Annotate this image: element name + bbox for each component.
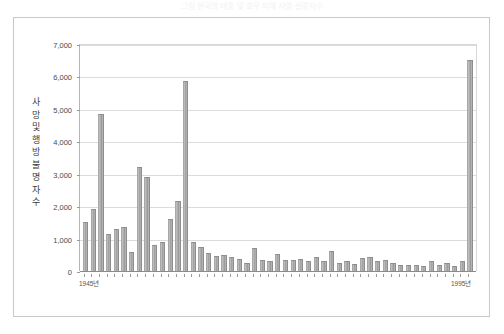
y-axis-title-char: 방: [27, 146, 45, 159]
bar: [444, 263, 449, 271]
x-tick-mark: [437, 274, 438, 277]
x-tick-mark: [360, 274, 361, 277]
bar: [414, 265, 419, 271]
bar: [283, 260, 288, 271]
bar: [183, 81, 188, 271]
bar: [314, 257, 319, 271]
bar: [344, 261, 349, 271]
bar: [237, 259, 242, 271]
x-tick-mark: [237, 274, 238, 277]
x-tick-mark: [245, 274, 246, 277]
x-tick-mark: [145, 274, 146, 277]
x-tick-mark: [114, 274, 115, 277]
x-tick-mark: [445, 274, 446, 277]
x-tick-mark: [406, 274, 407, 277]
figure-caption: 그림 한국의 태풍 및 호우 피해 사망·실종자수: [0, 0, 504, 14]
bar: [91, 209, 96, 271]
y-tick-mark: [77, 175, 80, 176]
bar: [221, 255, 226, 271]
bar: [137, 167, 142, 271]
y-tick-label: 1,000: [32, 236, 72, 245]
x-tick-right: 1995년: [451, 278, 471, 288]
bar: [198, 247, 203, 271]
x-tick-mark: [199, 274, 200, 277]
bar: [291, 260, 296, 271]
y-tick-mark: [77, 45, 80, 46]
x-tick-mark: [414, 274, 415, 277]
bar: [191, 242, 196, 271]
bar: [367, 257, 372, 271]
x-tick-mark: [283, 274, 284, 277]
x-tick-mark: [353, 274, 354, 277]
y-tick-label: 0: [32, 268, 72, 277]
x-tick-mark: [307, 274, 308, 277]
bar: [437, 265, 442, 271]
bar: [429, 261, 434, 271]
x-axis-labels: 1945년 1995년: [79, 274, 477, 288]
axis-baseline: [80, 271, 476, 272]
x-tick-mark: [299, 274, 300, 277]
x-tick-mark: [453, 274, 454, 277]
bar: [337, 263, 342, 271]
y-tick-label: 7,000: [32, 41, 72, 50]
x-tick-mark: [291, 274, 292, 277]
bar: [298, 259, 303, 271]
bar: [321, 261, 326, 271]
x-tick-mark: [168, 274, 169, 277]
x-tick-mark: [399, 274, 400, 277]
y-axis-title-char: 자: [27, 184, 45, 197]
bar: [398, 265, 403, 271]
bar: [467, 60, 472, 271]
x-tick-mark: [337, 274, 338, 277]
x-tick-mark: [153, 274, 154, 277]
bar-series: [81, 45, 476, 271]
x-tick-mark: [84, 274, 85, 277]
x-tick-mark: [368, 274, 369, 277]
bar: [375, 261, 380, 271]
x-tick-mark: [468, 274, 469, 277]
x-tick-mark: [391, 274, 392, 277]
plot-area: 01,0002,0003,0004,0005,0006,0007,000: [79, 44, 477, 271]
bar: [152, 245, 157, 271]
x-tick-mark: [222, 274, 223, 277]
bar: [267, 261, 272, 271]
x-tick-mark: [176, 274, 177, 277]
y-axis-title-char: 및: [27, 121, 45, 134]
x-tick-mark: [422, 274, 423, 277]
y-tick-mark: [77, 207, 80, 208]
x-tick-mark: [107, 274, 108, 277]
x-tick-mark: [268, 274, 269, 277]
bar: [460, 261, 465, 271]
bar: [421, 266, 426, 271]
bar: [352, 264, 357, 271]
x-tick-mark: [260, 274, 261, 277]
bar: [383, 260, 388, 271]
bar: [229, 257, 234, 271]
bar: [83, 222, 88, 271]
bar: [129, 252, 134, 271]
x-tick-mark: [161, 274, 162, 277]
x-tick-mark: [376, 274, 377, 277]
bar: [121, 227, 126, 271]
x-tick-mark: [137, 274, 138, 277]
x-tick-mark: [184, 274, 185, 277]
bar: [244, 263, 249, 271]
x-tick-mark: [191, 274, 192, 277]
y-tick-mark: [77, 142, 80, 143]
x-tick-mark: [91, 274, 92, 277]
bar: [306, 261, 311, 271]
y-tick-label: 5,000: [32, 106, 72, 115]
x-tick-mark: [460, 274, 461, 277]
bar: [168, 219, 173, 271]
bar: [106, 234, 111, 271]
bar: [329, 251, 334, 271]
x-tick-mark: [253, 274, 254, 277]
bar: [252, 248, 257, 271]
bar: [406, 265, 411, 271]
bar: [175, 201, 180, 271]
x-tick-mark: [383, 274, 384, 277]
x-tick-mark: [99, 274, 100, 277]
y-tick-label: 2,000: [32, 203, 72, 212]
x-tick-mark: [276, 274, 277, 277]
y-axis-title-char: 불: [27, 159, 45, 172]
